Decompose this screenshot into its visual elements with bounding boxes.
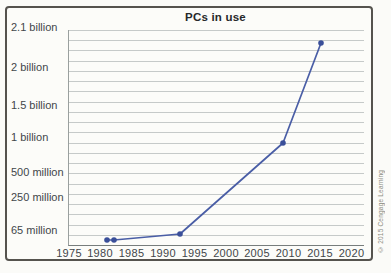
line-series-layer — [69, 30, 364, 245]
y-axis-label: 2.1 billion — [11, 21, 67, 33]
data-point-2008 — [280, 140, 286, 146]
y-axis-label: 1.5 billion — [11, 99, 67, 111]
figure-background: PCs in use 2.1 billion2 billion1.5 billi… — [0, 0, 391, 273]
y-axis-label: 2 billion — [11, 61, 67, 73]
copyright-note: © 2015 Cengage Learning — [377, 169, 384, 253]
data-point-2015 — [318, 40, 324, 46]
x-axis-tick: 2020 — [332, 247, 372, 259]
pcs-in-use-line — [107, 43, 321, 240]
data-point-1992 — [177, 231, 183, 237]
chart-title: PCs in use — [68, 11, 363, 23]
data-point-1982 — [111, 237, 117, 243]
plot-area — [68, 30, 364, 246]
y-axis-label: 250 million — [11, 191, 67, 203]
y-axis-label: 1 billion — [11, 131, 67, 143]
y-axis-label: 65 million — [11, 224, 67, 236]
data-point-1981 — [104, 237, 110, 243]
y-axis-label: 500 million — [11, 166, 67, 178]
